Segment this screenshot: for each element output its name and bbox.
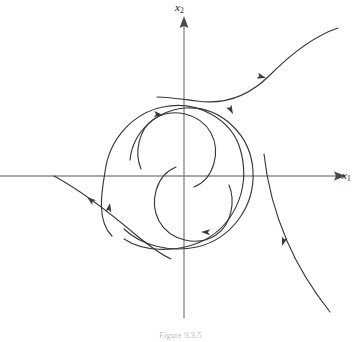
x2-axis-label-subscript: 2 (180, 6, 184, 15)
x1-axis-label: x1 (342, 170, 351, 183)
phase-portrait-canvas (0, 0, 361, 342)
direction-arrows-group (85, 73, 287, 247)
trajectory-separatrix-lower-left (54, 176, 171, 259)
trajectory-outer-spiral-arc (101, 106, 243, 250)
trajectory-inner-arm-lower (154, 167, 232, 241)
trajectory-outer-spiral-second-turn (124, 108, 253, 249)
trajectories-group (54, 28, 338, 312)
x1-axis-label-subscript: 1 (347, 174, 351, 183)
trajectory-separatrix-lower-right (264, 154, 330, 312)
figure-caption: Figure 9.3.5 (0, 331, 361, 340)
arrow-outer-top-right (226, 105, 236, 116)
x2-axis-label: x2 (175, 2, 184, 15)
arrow-inner-bottom (201, 229, 210, 235)
phase-portrait-figure: x2 x1 Figure 9.3.5 (0, 0, 361, 342)
axes-group (0, 16, 346, 318)
